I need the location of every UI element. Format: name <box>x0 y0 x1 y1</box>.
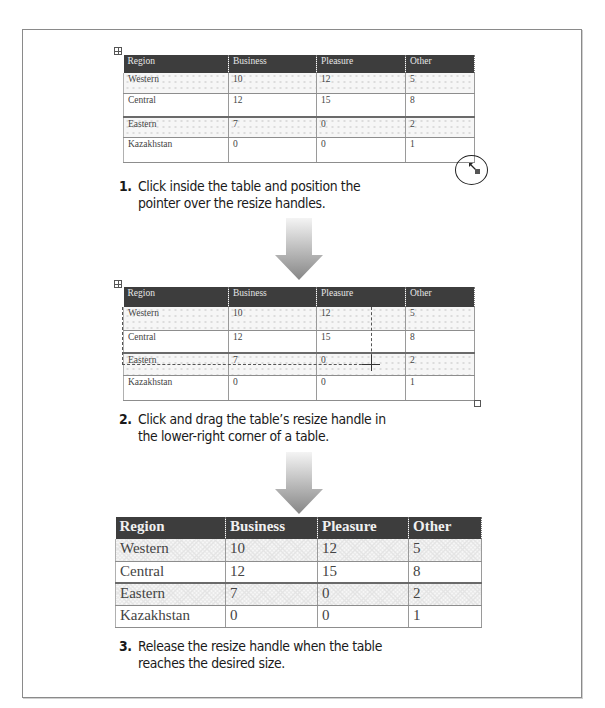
cell[interactable]: 8 <box>406 330 475 353</box>
cell[interactable]: 15 <box>317 330 406 353</box>
cell[interactable]: 8 <box>409 561 482 583</box>
header-business: Business <box>229 55 317 73</box>
cell[interactable]: 2 <box>406 117 475 137</box>
table-header-row: Region Business Pleasure Other <box>124 55 475 73</box>
header-pleasure: Pleasure <box>317 287 406 307</box>
crosshair-cursor-icon <box>371 355 372 371</box>
cell[interactable]: 1 <box>409 605 482 627</box>
header-business: Business <box>229 287 317 307</box>
cell[interactable]: 0 <box>317 137 406 162</box>
step-1-text: 1.Click inside the table and position th… <box>119 178 463 212</box>
table-row: Central 12 15 8 <box>124 93 475 117</box>
table-step-2: Region Business Pleasure Other Western 1… <box>123 287 475 401</box>
cell[interactable]: Western <box>124 307 229 330</box>
header-region: Region <box>124 55 229 73</box>
table-row: Central 12 15 8 <box>124 330 475 353</box>
cell[interactable]: 12 <box>229 330 317 353</box>
resize-cursor-icon <box>467 161 483 177</box>
table-row: Kazakhstan 0 0 1 <box>124 137 475 162</box>
cell[interactable]: Central <box>124 93 229 117</box>
header-other: Other <box>406 55 475 73</box>
cell[interactable]: 0 <box>317 375 406 400</box>
cell[interactable]: 15 <box>318 561 409 583</box>
step-number: 1. <box>119 178 138 195</box>
table-header-row: Region Business Pleasure Other <box>124 287 475 307</box>
table-step-3: Region Business Pleasure Other Western 1… <box>115 517 482 628</box>
cell[interactable]: 5 <box>409 539 482 561</box>
cell[interactable]: 0 <box>226 605 318 627</box>
step-number: 3. <box>119 638 138 655</box>
header-region: Region <box>116 517 226 539</box>
cell[interactable]: 8 <box>406 93 475 117</box>
cell[interactable]: 2 <box>409 583 482 605</box>
table-row: Western 10 12 5 <box>116 539 482 561</box>
cell[interactable]: Kazakhstan <box>124 137 229 162</box>
step-3-text: 3.Release the resize handle when the tab… <box>119 638 463 672</box>
cell[interactable]: 0 <box>317 117 406 137</box>
cell[interactable]: 12 <box>317 307 406 330</box>
cell[interactable]: 0 <box>318 583 409 605</box>
down-arrow-icon <box>272 452 326 516</box>
header-business: Business <box>226 517 318 539</box>
cell[interactable]: 0 <box>318 605 409 627</box>
cell[interactable]: 12 <box>226 561 318 583</box>
step-2-text: 2.Click and drag the table’s resize hand… <box>119 411 463 445</box>
table-row: Western 10 12 5 <box>124 73 475 93</box>
table-row: Kazakhstan 0 0 1 <box>124 375 475 400</box>
header-other: Other <box>409 517 482 539</box>
down-arrow-icon <box>272 218 326 282</box>
drag-outline-left <box>122 307 123 365</box>
table-move-handle-icon[interactable] <box>114 47 122 55</box>
cell[interactable]: 2 <box>406 353 475 375</box>
header-region: Region <box>124 287 229 307</box>
header-pleasure: Pleasure <box>318 517 409 539</box>
table-row: Central 12 15 8 <box>116 561 482 583</box>
cell[interactable]: Central <box>116 561 226 583</box>
table-row: Eastern 7 0 2 <box>124 117 475 137</box>
cell[interactable]: 7 <box>229 117 317 137</box>
cell[interactable]: 10 <box>229 307 317 330</box>
table-row: Kazakhstan 0 0 1 <box>116 605 482 627</box>
cell[interactable]: 1 <box>406 375 475 400</box>
drag-outline-bottom <box>122 364 372 365</box>
cell[interactable]: 7 <box>226 583 318 605</box>
cell[interactable]: 15 <box>317 93 406 117</box>
table-row: Eastern 7 0 2 <box>116 583 482 605</box>
cell[interactable]: 5 <box>406 307 475 330</box>
cell[interactable]: 5 <box>406 73 475 93</box>
cell[interactable]: 10 <box>229 73 317 93</box>
cell[interactable]: Kazakhstan <box>116 605 226 627</box>
cell[interactable]: 10 <box>226 539 318 561</box>
header-pleasure: Pleasure <box>317 55 406 73</box>
cell[interactable]: 12 <box>229 93 317 117</box>
cell[interactable]: Kazakhstan <box>124 375 229 400</box>
cell[interactable]: Western <box>124 73 229 93</box>
cell[interactable]: 12 <box>318 539 409 561</box>
cell[interactable]: Western <box>116 539 226 561</box>
cell[interactable]: 12 <box>317 73 406 93</box>
step-number: 2. <box>119 411 138 428</box>
cell[interactable]: Eastern <box>116 583 226 605</box>
header-other: Other <box>406 287 475 307</box>
cell[interactable]: 0 <box>229 137 317 162</box>
table-row: Western 10 12 5 <box>124 307 475 330</box>
table-resize-handle-icon[interactable] <box>474 400 481 407</box>
table-move-handle-icon[interactable] <box>114 280 122 288</box>
cell[interactable]: Eastern <box>124 117 229 137</box>
cell[interactable]: Central <box>124 330 229 353</box>
cell[interactable]: 0 <box>229 375 317 400</box>
table-header-row: Region Business Pleasure Other <box>116 517 482 539</box>
table-step-1: Region Business Pleasure Other Western 1… <box>123 55 475 163</box>
